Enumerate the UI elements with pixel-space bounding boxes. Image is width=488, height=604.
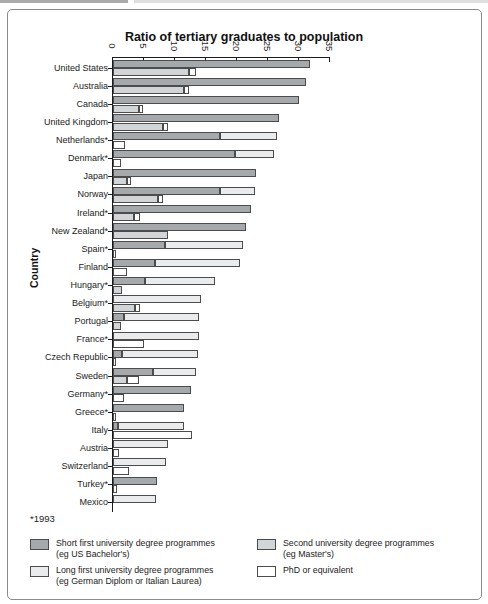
x-axis-tick-label: 0 [106, 37, 118, 55]
country-label: United States [0, 63, 108, 74]
y-axis-tick [108, 430, 112, 431]
bar-segment-short_first [113, 96, 299, 104]
country-label: Austria [0, 443, 108, 454]
bar-segment-short_first [113, 259, 156, 267]
legend-swatch-second [257, 539, 276, 550]
bar-segment-phd [113, 485, 118, 493]
legend-item-short-first: Short first university degree programmes… [30, 538, 215, 560]
legend-swatch-short-first [30, 539, 49, 550]
bar-segment-short_first [113, 223, 246, 231]
x-axis-tick-label: 25 [261, 37, 273, 55]
bar-segment-long_first [113, 495, 156, 503]
bar-segment-phd [113, 340, 144, 348]
x-axis-tick-label: 30 [292, 37, 304, 55]
bar-segment-second [113, 231, 169, 239]
country-label: Ireland* [0, 208, 108, 219]
bar-segment-phd [113, 431, 193, 439]
y-axis-tick [108, 122, 112, 123]
bar-segment-second [113, 195, 158, 203]
bar-segment-long_first [113, 295, 201, 303]
legend-item-long-first: Long first university degree programmes … [30, 565, 213, 587]
bar-segment-phd [127, 376, 138, 384]
bar-segment-second [113, 177, 128, 185]
bar-segment-phd [113, 467, 129, 475]
legend-sublabel-second: (eg Master's) [283, 549, 434, 560]
bar-segment-long_first [113, 458, 167, 466]
y-axis-tick [108, 249, 112, 250]
bar-segment-phd [113, 141, 125, 149]
legend-item-second: Second university degree programmes (eg … [257, 538, 434, 560]
bar-segment-short_first [113, 169, 257, 177]
bar-segment-long_first [155, 259, 240, 267]
cropped-page-rule-left [0, 0, 128, 3]
y-axis-tick [108, 484, 112, 485]
bar-segment-phd [113, 413, 116, 421]
cropped-page-rule-right [134, 0, 488, 3]
country-label: Italy [0, 425, 108, 436]
bar-segment-phd [189, 68, 196, 76]
y-axis-tick [108, 502, 112, 503]
bar-segment-short_first [113, 78, 306, 86]
bar-segment-short_first [113, 277, 145, 285]
country-label: Australia [0, 81, 108, 92]
legend-sublabel-short-first: (eg US Bachelor's) [56, 549, 215, 560]
x-axis-tick-label: 5 [137, 37, 149, 55]
bar-segment-phd [134, 213, 141, 221]
bar-segment-phd [127, 177, 131, 185]
bar-segment-phd [113, 268, 127, 276]
x-axis-tick-label: 10 [168, 37, 180, 55]
bar-segment-second [113, 304, 136, 312]
bar-segment-phd [163, 123, 168, 131]
bar-segment-second [113, 105, 139, 113]
y-axis-tick [108, 68, 112, 69]
bar-segment-long_first [165, 241, 244, 249]
legend-sublabel-long-first: (eg German Diplom or Italian Laurea) [56, 576, 213, 587]
y-axis-tick [108, 466, 112, 467]
country-label: Portugal [0, 316, 108, 327]
bar-segment-short_first [113, 187, 221, 195]
y-axis-tick [108, 321, 112, 322]
country-label: United Kingdom [0, 117, 108, 128]
bar-segment-second [113, 68, 189, 76]
bar-segment-second [113, 213, 134, 221]
country-label: Sweden [0, 371, 108, 382]
y-axis-tick [108, 176, 112, 177]
bar-segment-long_first [113, 332, 199, 340]
bar-segment-second [113, 123, 163, 131]
country-label: Denmark* [0, 153, 108, 164]
country-label: Turkey* [0, 479, 108, 490]
bar-segment-long_first [220, 132, 276, 140]
bar-segment-short_first [113, 368, 154, 376]
country-label: Mexico [0, 497, 108, 508]
country-label: Switzerland [0, 461, 108, 472]
country-label: Spain* [0, 244, 108, 255]
bar-segment-short_first [113, 350, 123, 358]
legend-label-second: Second university degree programmes [283, 538, 434, 549]
y-axis-tick [108, 86, 112, 87]
y-axis-tick [108, 285, 112, 286]
figure: Ratio of tertiary graduates to populatio… [0, 0, 488, 604]
y-axis-tick [108, 213, 112, 214]
bar-segment-short_first [113, 477, 157, 485]
bar-segment-short_first [113, 60, 310, 68]
x-axis-tick-label: 20 [230, 37, 242, 55]
country-label: Canada [0, 99, 108, 110]
legend-item-phd: PhD or equivalent [257, 565, 353, 577]
x-axis-tick-label: 35 [323, 37, 335, 55]
country-label: France* [0, 334, 108, 345]
y-axis-tick [108, 376, 112, 377]
y-axis-tick [108, 357, 112, 358]
bar-segment-short_first [113, 404, 185, 412]
y-axis-tick [108, 231, 112, 232]
y-axis-tick [108, 412, 112, 413]
footnote: *1993 [30, 513, 55, 524]
bar-segment-short_first [113, 150, 236, 158]
country-label: Hungary* [0, 280, 108, 291]
country-label: Belgium* [0, 298, 108, 309]
bar-segment-short_first [113, 205, 251, 213]
bar-segment-phd [113, 449, 119, 457]
bar-segment-phd [113, 358, 116, 366]
bar-segment-short_first [113, 132, 221, 140]
y-axis-tick [108, 104, 112, 105]
legend-swatch-phd [257, 566, 276, 577]
